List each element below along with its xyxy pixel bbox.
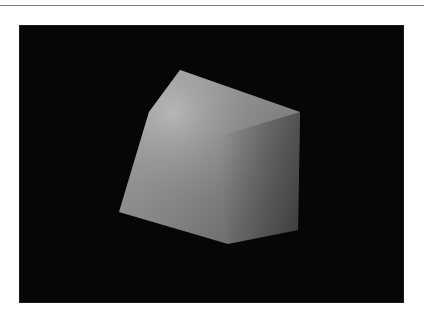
cube xyxy=(119,70,300,244)
cube-render xyxy=(20,26,403,302)
top-divider xyxy=(0,5,424,6)
render-viewport xyxy=(20,26,403,302)
